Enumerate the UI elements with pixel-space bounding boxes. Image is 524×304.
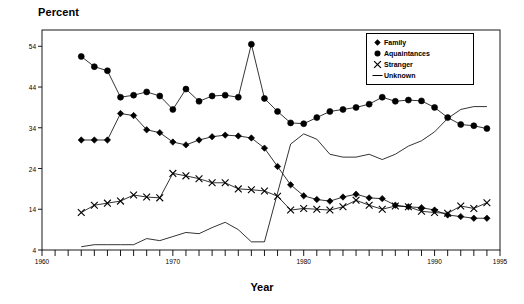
- y-axis-tick-label: 44: [14, 84, 36, 91]
- line-icon: [371, 70, 384, 81]
- data-point-marker: [222, 92, 228, 98]
- data-point-marker: [484, 126, 490, 132]
- data-point-marker: [327, 198, 333, 204]
- data-point-marker: [183, 86, 189, 92]
- data-point-marker: [405, 97, 411, 103]
- data-point-marker: [169, 170, 176, 177]
- data-point-marker: [157, 129, 163, 135]
- circle-icon: [371, 48, 384, 59]
- data-point-marker: [353, 197, 360, 204]
- y-axis-tick-label: 34: [14, 124, 36, 131]
- data-point-marker: [392, 202, 398, 208]
- data-point-marker: [379, 94, 385, 100]
- data-point-marker: [366, 101, 372, 107]
- data-point-marker: [432, 104, 438, 110]
- data-point-marker: [314, 196, 320, 202]
- data-point-marker: [314, 115, 320, 121]
- data-point-marker: [458, 122, 464, 128]
- data-point-marker: [340, 106, 346, 112]
- x-axis-tick-label: 1980: [296, 258, 310, 265]
- data-point-marker: [301, 121, 307, 127]
- data-point-marker: [248, 41, 254, 47]
- data-point-marker: [340, 194, 346, 200]
- data-point-marker: [457, 203, 464, 210]
- data-point-marker: [117, 110, 123, 116]
- legend-item-family: Family: [371, 37, 469, 48]
- legend-item-label: Aquaintances: [384, 48, 430, 59]
- diamond-icon: [371, 37, 384, 48]
- x-axis-tick-label: 1960: [35, 258, 49, 265]
- data-point-marker: [418, 204, 424, 210]
- data-point-marker: [170, 139, 176, 145]
- legend-item-unknown: Unknown: [371, 70, 469, 81]
- data-point-marker: [484, 215, 490, 221]
- data-point-marker: [209, 93, 215, 99]
- data-point-marker: [353, 104, 359, 110]
- data-point-marker: [118, 94, 124, 100]
- data-point-marker: [131, 92, 137, 98]
- series-line-unknown: [81, 107, 487, 247]
- line-chart: Percent 41424344454 19601970198019901995…: [0, 0, 524, 304]
- data-point-marker: [261, 95, 267, 101]
- data-point-marker: [379, 206, 386, 213]
- data-point-marker: [235, 94, 241, 100]
- legend-item-label: Unknown: [384, 70, 416, 81]
- data-point-marker: [470, 205, 477, 212]
- data-point-marker: [288, 120, 294, 126]
- data-point-marker: [170, 106, 176, 112]
- data-point-marker: [222, 132, 228, 138]
- data-point-marker: [471, 123, 477, 129]
- series-line-family: [81, 114, 487, 219]
- data-point-marker: [104, 68, 110, 74]
- data-point-marker: [340, 203, 347, 210]
- x-axis-tick-label: 1995: [493, 258, 507, 265]
- data-point-marker: [418, 98, 424, 104]
- x-icon: [371, 59, 384, 70]
- data-point-marker: [91, 64, 97, 70]
- data-point-marker: [445, 115, 451, 121]
- data-point-marker: [235, 133, 241, 139]
- legend-item-aquaintances: Aquaintances: [371, 48, 469, 59]
- data-point-marker: [327, 108, 333, 114]
- x-axis-title: Year: [0, 281, 524, 293]
- legend-item-label: Family: [384, 37, 406, 48]
- data-point-marker: [196, 137, 202, 143]
- data-point-marker: [144, 89, 150, 95]
- y-axis-tick-label: 24: [14, 165, 36, 172]
- series-line-stranger: [81, 173, 487, 213]
- x-axis-tick-label: 1990: [427, 258, 441, 265]
- data-point-marker: [209, 134, 215, 140]
- data-point-marker: [91, 137, 97, 143]
- data-point-marker: [458, 213, 464, 219]
- y-axis-tick-label: 14: [14, 206, 36, 213]
- y-axis-title: Percent: [38, 6, 79, 18]
- data-point-marker: [78, 209, 85, 216]
- data-point-marker: [196, 175, 203, 182]
- data-point-marker: [353, 191, 359, 197]
- data-point-marker: [104, 137, 110, 143]
- data-point-marker: [157, 93, 163, 99]
- data-point-marker: [78, 53, 84, 59]
- y-axis-tick-label: 4: [14, 247, 36, 254]
- legend-item-stranger: Stranger: [371, 59, 469, 70]
- data-point-marker: [366, 195, 372, 201]
- chart-legend: FamilyAquaintancesStrangerUnknown: [366, 33, 474, 85]
- data-point-marker: [392, 98, 398, 104]
- y-axis-tick-label: 54: [14, 43, 36, 50]
- data-point-marker: [275, 108, 281, 114]
- data-point-marker: [274, 163, 280, 169]
- data-point-marker: [183, 172, 190, 179]
- x-axis-tick-label: 1970: [166, 258, 180, 265]
- data-point-marker: [471, 215, 477, 221]
- legend-item-label: Stranger: [384, 59, 413, 70]
- data-point-marker: [78, 137, 84, 143]
- data-point-marker: [366, 202, 373, 209]
- data-point-marker: [484, 199, 491, 206]
- data-point-marker: [183, 142, 189, 148]
- data-point-marker: [379, 195, 385, 201]
- data-point-marker: [196, 98, 202, 104]
